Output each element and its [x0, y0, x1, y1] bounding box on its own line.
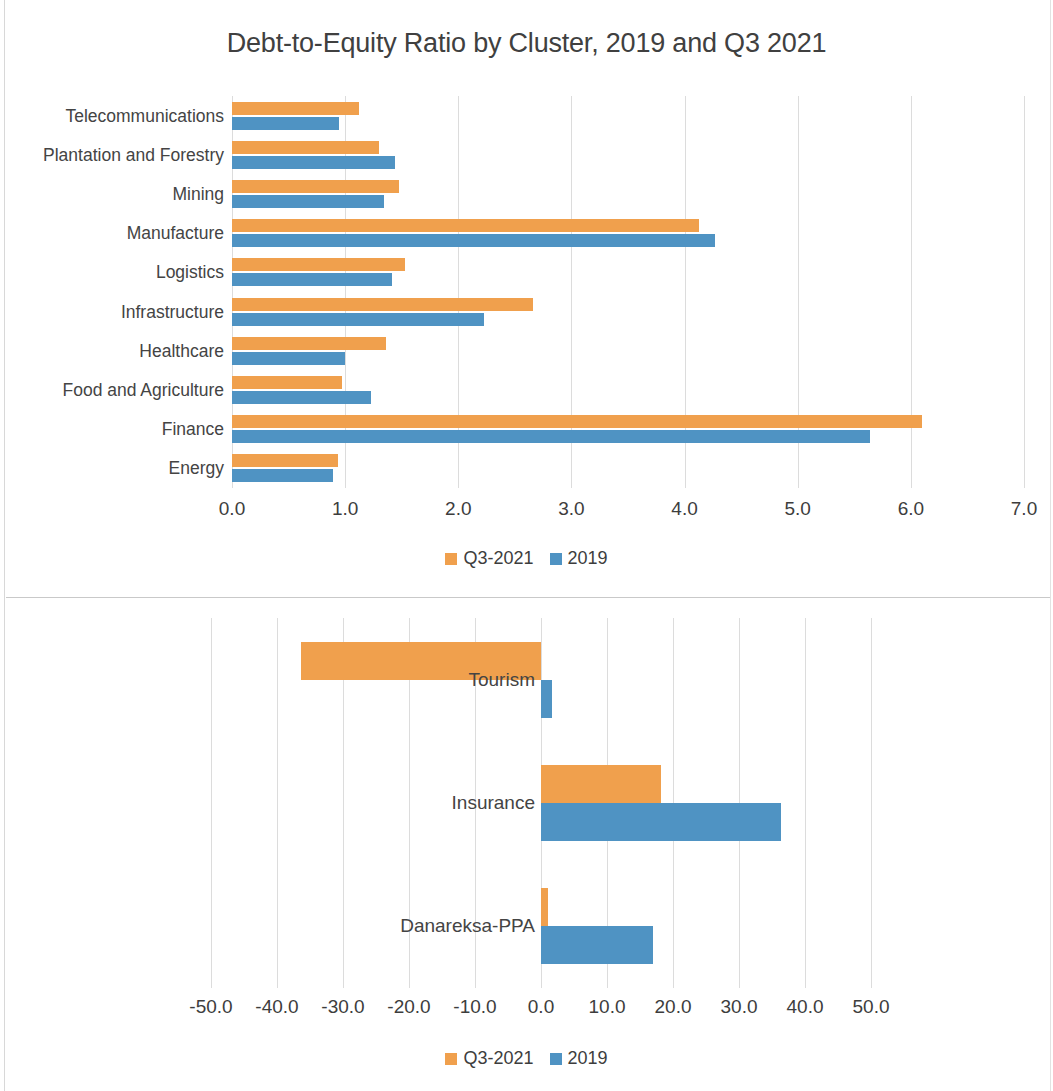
x-tick-label: -10.0 — [453, 996, 496, 1018]
x-tick-label: 0.0 — [528, 996, 554, 1018]
plot-area-bottom: TourismInsuranceDanareksa-PPA — [178, 618, 904, 988]
page-title: Debt-to-Equity Ratio by Cluster, 2019 an… — [0, 28, 1053, 59]
bar-q3-2021-danareksa-ppa — [541, 888, 548, 926]
bar-2019-logistics — [232, 273, 392, 286]
gridline — [1024, 96, 1025, 488]
bar-2019-insurance — [541, 803, 781, 841]
bar-2019-manufacture — [232, 234, 715, 247]
legend-label-q3-2021: Q3-2021 — [463, 1048, 533, 1069]
legend-item-q3-2021: Q3-2021 — [445, 548, 533, 569]
category-label: Finance — [162, 419, 224, 440]
x-tick-label: 6.0 — [898, 498, 924, 520]
x-axis-bottom: -50.0-40.0-30.0-20.0-10.00.010.020.030.0… — [178, 996, 904, 1022]
gridline — [805, 618, 806, 988]
gridline — [232, 96, 233, 488]
bar-2019-food-and-agriculture — [232, 391, 371, 404]
legend-label-q3-2021: Q3-2021 — [463, 548, 533, 569]
bar-q3-2021-food-and-agriculture — [232, 376, 342, 389]
gridline — [345, 96, 346, 488]
bar-q3-2021-insurance — [541, 765, 661, 803]
category-label: Manufacture — [127, 223, 224, 244]
bar-2019-danareksa-ppa — [541, 926, 653, 964]
x-tick-label: 3.0 — [558, 498, 584, 520]
category-label: Mining — [172, 184, 224, 205]
x-tick-label: 10.0 — [589, 996, 626, 1018]
chart-debt-to-equity-outliers: TourismInsuranceDanareksa-PPA -50.0-40.0… — [0, 598, 1053, 1091]
x-tick-label: -50.0 — [189, 996, 232, 1018]
bar-2019-mining — [232, 195, 384, 208]
bar-2019-finance — [232, 430, 870, 443]
x-tick-label: -40.0 — [255, 996, 298, 1018]
legend-bottom: Q3-2021 2019 — [0, 1048, 1053, 1069]
bar-q3-2021-infrastructure — [232, 298, 533, 311]
bar-q3-2021-healthcare — [232, 337, 386, 350]
plot-area-top: TelecommunicationsPlantation and Forestr… — [232, 96, 1024, 488]
legend-swatch-icon-2019 — [550, 553, 562, 565]
category-label: Healthcare — [139, 340, 224, 361]
x-tick-label: 7.0 — [1011, 498, 1037, 520]
bar-2019-plantation-and-forestry — [232, 156, 395, 169]
gridline — [458, 96, 459, 488]
legend-swatch-icon-q3-2021 — [445, 1053, 457, 1065]
x-tick-label: 2.0 — [445, 498, 471, 520]
bar-2019-tourism — [541, 680, 552, 718]
category-label: Infrastructure — [121, 301, 224, 322]
x-axis-top: 0.01.02.03.04.05.06.07.0 — [232, 498, 1024, 524]
x-tick-label: 4.0 — [671, 498, 697, 520]
category-label: Insurance — [178, 792, 535, 814]
bar-2019-energy — [232, 469, 333, 482]
legend-item-2019: 2019 — [550, 548, 608, 569]
bar-q3-2021-finance — [232, 415, 922, 428]
category-label: Plantation and Forestry — [43, 144, 224, 165]
x-tick-label: 40.0 — [787, 996, 824, 1018]
bar-2019-infrastructure — [232, 313, 484, 326]
bar-q3-2021-energy — [232, 454, 338, 467]
legend-top: Q3-2021 2019 — [0, 548, 1053, 569]
legend-label-2019: 2019 — [568, 1048, 608, 1069]
x-tick-label: 20.0 — [655, 996, 692, 1018]
x-tick-label: -30.0 — [321, 996, 364, 1018]
category-label: Danareksa-PPA — [178, 915, 535, 937]
x-tick-label: 5.0 — [784, 498, 810, 520]
legend-swatch-icon-q3-2021 — [445, 553, 457, 565]
category-label: Logistics — [156, 262, 224, 283]
bar-q3-2021-telecommunications — [232, 102, 359, 115]
chart-debt-to-equity-by-cluster: Debt-to-Equity Ratio by Cluster, 2019 an… — [0, 0, 1053, 597]
legend-swatch-icon-2019 — [550, 1053, 562, 1065]
x-tick-label: 0.0 — [219, 498, 245, 520]
gridline — [911, 96, 912, 488]
bar-2019-healthcare — [232, 352, 345, 365]
category-label: Energy — [169, 458, 224, 479]
chart-page: Debt-to-Equity Ratio by Cluster, 2019 an… — [0, 0, 1053, 1091]
bar-q3-2021-mining — [232, 180, 399, 193]
x-tick-label: -20.0 — [387, 996, 430, 1018]
gridline — [798, 96, 799, 488]
x-tick-label: 50.0 — [853, 996, 890, 1018]
gridline — [685, 96, 686, 488]
category-label: Food and Agriculture — [63, 380, 225, 401]
x-tick-label: 30.0 — [721, 996, 758, 1018]
x-tick-label: 1.0 — [332, 498, 358, 520]
category-label: Tourism — [178, 669, 535, 691]
gridline — [571, 96, 572, 488]
bar-q3-2021-plantation-and-forestry — [232, 141, 379, 154]
bar-q3-2021-manufacture — [232, 219, 699, 232]
category-label: Telecommunications — [65, 105, 224, 126]
legend-label-2019: 2019 — [568, 548, 608, 569]
bar-2019-telecommunications — [232, 117, 339, 130]
legend-item-2019-bottom: 2019 — [550, 1048, 608, 1069]
legend-item-q3-2021-bottom: Q3-2021 — [445, 1048, 533, 1069]
gridline — [871, 618, 872, 988]
bar-q3-2021-logistics — [232, 258, 405, 271]
